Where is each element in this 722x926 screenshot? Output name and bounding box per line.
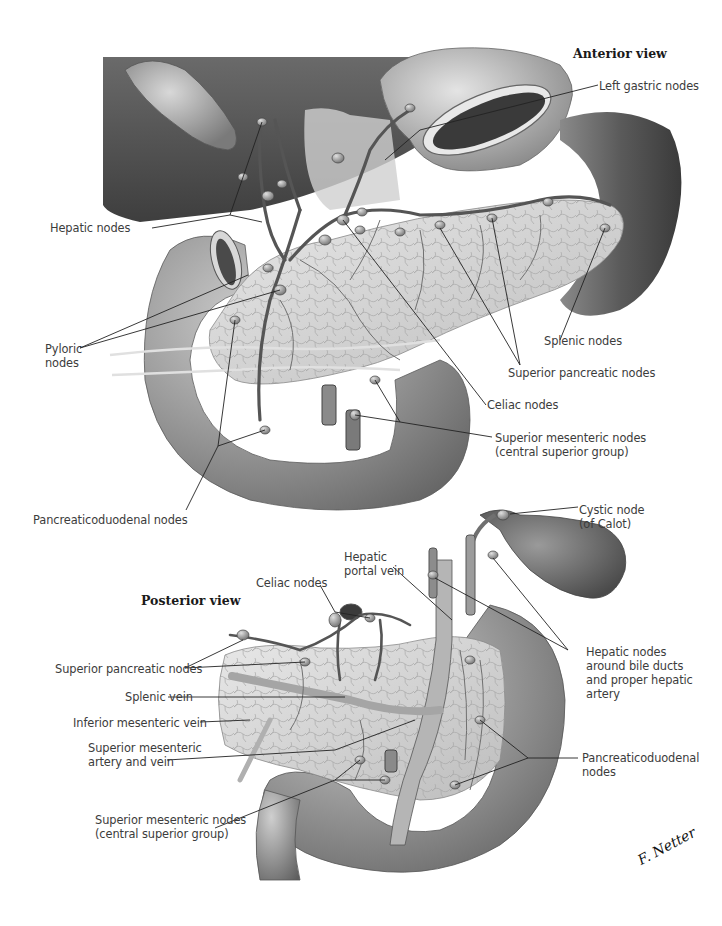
label-celiac-nodes-posterior: Celiac nodes: [256, 576, 327, 590]
label-superior-mesenteric-nodes-posterior: Superior mesenteric nodes (central super…: [95, 813, 246, 841]
label-pancreaticoduodenal-nodes-posterior: Pancreaticoduodenal nodes: [582, 751, 699, 779]
posterior-view-title: Posterior view: [141, 593, 241, 608]
lymph-nodes-figure: Anterior view Left gastric nodes Hepatic…: [0, 0, 722, 926]
label-superior-mesenteric-nodes: Superior mesenteric nodes (central super…: [495, 431, 646, 459]
superior-mesenteric-vein-cut: [322, 385, 336, 425]
label-superior-pancreatic-nodes: Superior pancreatic nodes: [508, 366, 655, 380]
label-splenic-nodes: Splenic nodes: [544, 334, 622, 348]
label-superior-pancreatic-nodes-posterior: Superior pancreatic nodes: [55, 662, 202, 676]
label-superior-mesenteric-artery-vein: Superior mesenteric artery and vein: [88, 741, 202, 769]
anterior-view-title: Anterior view: [573, 46, 667, 61]
bile-duct: [466, 535, 475, 615]
label-celiac-nodes: Celiac nodes: [487, 398, 558, 412]
label-hepatic-nodes: Hepatic nodes: [50, 221, 130, 235]
anatomy-illustration: [0, 0, 722, 926]
label-pyloric-nodes: Pyloric nodes: [45, 342, 82, 370]
label-hepatic-portal-vein: Hepatic portal vein: [344, 550, 404, 578]
label-splenic-vein: Splenic vein: [125, 690, 193, 704]
label-pancreaticoduodenal-nodes: Pancreaticoduodenal nodes: [33, 513, 188, 527]
label-inferior-mesenteric-vein: Inferior mesenteric vein: [73, 716, 207, 730]
label-hepatic-nodes-bile-ducts: Hepatic nodes around bile ducts and prop…: [586, 645, 693, 701]
sma-smv-cut: [385, 750, 397, 772]
label-cystic-node: Cystic node (of Calot): [579, 503, 644, 531]
label-left-gastric-nodes: Left gastric nodes: [599, 79, 699, 93]
